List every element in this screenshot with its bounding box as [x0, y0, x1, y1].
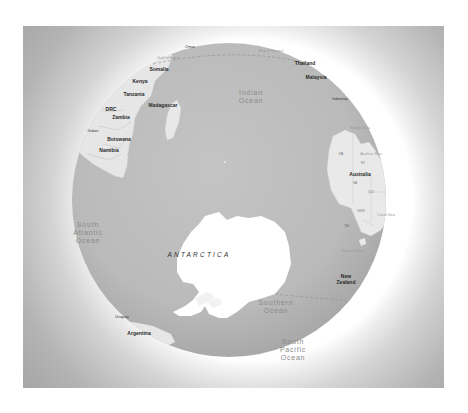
label-australia[interactable]: Australia: [349, 172, 370, 177]
label-somalia[interactable]: Somalia: [149, 67, 168, 72]
label-kenya[interactable]: Kenya: [132, 79, 147, 84]
label-tanzania[interactable]: Tanzania: [123, 92, 144, 97]
label-southern-ocean-line2: Ocean: [259, 307, 294, 315]
label-bay-of-bengal: Bay of Bengal: [259, 49, 284, 53]
label-indonesia[interactable]: Indonesia: [332, 98, 348, 102]
label-zambia[interactable]: Zambia: [112, 115, 130, 120]
label-south-pacific-line2: Pacific: [280, 346, 306, 354]
globe[interactable]: [23, 26, 444, 388]
label-new-zealand[interactable]: New Zealand: [337, 273, 356, 285]
label-new-zealand-line2: Zealand: [337, 279, 356, 285]
label-gulf-of-aden: Gulf of Aden: [157, 56, 179, 60]
label-coral-sea: Coral Sea: [377, 213, 395, 217]
label-state-tas: TAS: [344, 225, 350, 228]
label-south-pacific-ocean: South Pacific Ocean: [280, 338, 306, 362]
label-south-atlantic-ocean: South Atlantic Ocean: [73, 221, 102, 245]
label-state-nsw: NSW: [358, 210, 365, 213]
label-indian-ocean: Indian Ocean: [239, 89, 264, 105]
label-south-atlantic-line1: South: [73, 221, 102, 229]
label-gabon[interactable]: Gabon: [88, 130, 99, 134]
label-argentina[interactable]: Argentina: [127, 331, 150, 336]
label-oman[interactable]: Oman: [185, 46, 195, 50]
label-south-pacific-line1: South: [280, 338, 306, 346]
label-south-atlantic-line2: Atlantic: [73, 229, 102, 237]
label-state-sa: SA: [353, 182, 357, 185]
label-antarctica: ANTARCTICA: [167, 252, 230, 259]
label-state-nt: NT: [361, 162, 365, 165]
label-tasman-sea: Tasman Sea: [341, 249, 363, 253]
label-state-qld: QLD: [368, 191, 374, 194]
label-south-pacific-line3: Ocean: [280, 354, 306, 362]
label-uruguay[interactable]: Uruguay: [115, 316, 129, 320]
label-south-atlantic-line3: Ocean: [73, 237, 102, 245]
label-southern-ocean: Southern Ocean: [259, 299, 294, 315]
label-drc[interactable]: DRC: [106, 107, 117, 112]
island-marker: [224, 161, 226, 163]
label-southern-ocean-line1: Southern: [259, 299, 294, 307]
label-indian-ocean-line2: Ocean: [239, 97, 264, 105]
label-malaysia[interactable]: Malaysia: [306, 75, 327, 80]
label-thailand[interactable]: Thailand: [295, 61, 316, 66]
map-canvas[interactable]: ANTARCTICA Indian Ocean South Atlantic O…: [23, 26, 444, 388]
label-state-wa: WA: [339, 153, 344, 156]
label-namibia[interactable]: Namibia: [99, 148, 118, 153]
label-botswana[interactable]: Botswana: [107, 137, 131, 142]
label-arafura-sea: Arafura Sea: [360, 152, 381, 156]
label-madagascar[interactable]: Madagascar: [149, 103, 178, 108]
label-indian-ocean-line1: Indian: [239, 89, 264, 97]
label-banda-sea: Banda Sea: [350, 126, 370, 130]
